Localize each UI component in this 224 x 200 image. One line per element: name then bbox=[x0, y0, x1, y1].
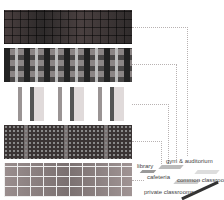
pattern-panel-2 bbox=[4, 48, 132, 82]
pattern-panel-4 bbox=[4, 125, 132, 159]
label-cafeteria: cafeteria bbox=[147, 174, 170, 180]
block-library bbox=[140, 170, 157, 173]
label-gym: gym & auditorium bbox=[166, 158, 213, 164]
pattern-panel-1 bbox=[4, 10, 132, 44]
pattern-panel-3 bbox=[4, 87, 132, 121]
label-common: common classrooms bbox=[177, 177, 224, 183]
leader-line-5 bbox=[132, 180, 144, 182]
label-private: private classrooms bbox=[144, 189, 194, 195]
block-common-top bbox=[194, 170, 219, 174]
label-library: library bbox=[137, 163, 153, 169]
pattern-panel-5 bbox=[4, 163, 132, 197]
block-gym bbox=[158, 165, 183, 169]
leader-line-4 bbox=[132, 141, 162, 164]
